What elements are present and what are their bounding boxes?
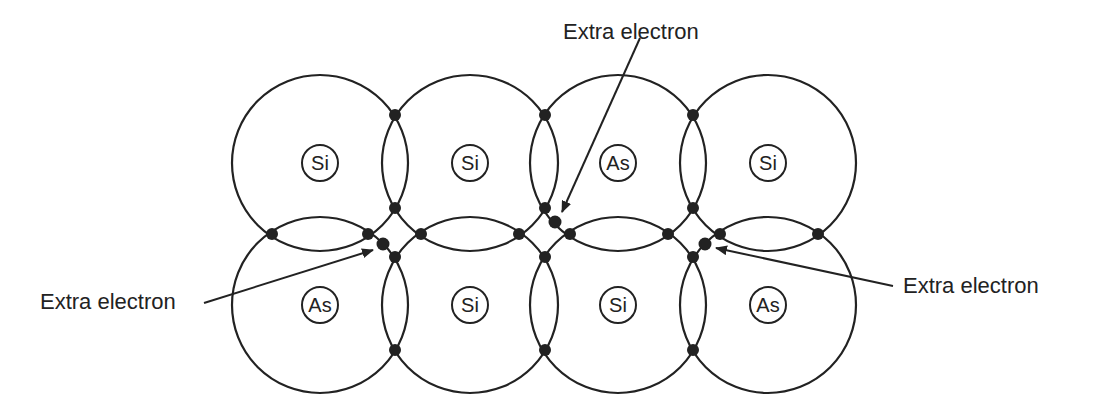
atom-as: As (599, 144, 637, 182)
atom-si: Si (451, 144, 489, 182)
annotation-extra-electron-right: Extra electron (903, 273, 1039, 299)
annotation-extra-electron-top: Extra electron (563, 19, 699, 45)
atom-si: Si (451, 286, 489, 324)
atom-si: Si (749, 144, 787, 182)
atom-si: Si (599, 286, 637, 324)
annotation-extra-electron-left: Extra electron (40, 289, 176, 315)
atom-as: As (301, 286, 339, 324)
lattice-diagram (0, 0, 1099, 415)
atom-as: As (749, 286, 787, 324)
atom-si: Si (301, 144, 339, 182)
